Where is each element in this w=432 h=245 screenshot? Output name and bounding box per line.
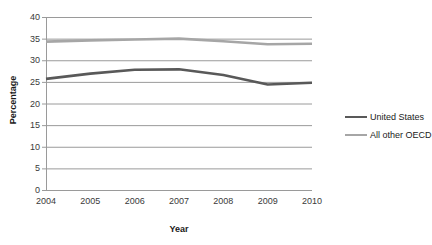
line-swatch-icon [345,134,367,136]
x-axis-tick-labels: 2004200520062007200820092010 [46,196,312,216]
x-axis-title: Year [46,224,312,234]
x-axis-tick-label: 2004 [26,196,66,206]
x-axis-tick-label: 2009 [248,196,288,206]
line-swatch-icon [345,116,367,118]
x-axis-tick-label: 2008 [203,196,243,206]
legend-item[interactable]: United States [345,108,432,126]
x-axis-tick-label: 2005 [70,196,110,206]
legend-item-label: United States [370,112,424,122]
x-axis-tick-label: 2006 [115,196,155,206]
x-axis-tick-label: 2010 [292,196,332,206]
chart-legend: United StatesAll other OECD [345,108,432,144]
x-axis-tick-label: 2007 [159,196,199,206]
y-axis-ticks [42,18,46,191]
legend-item-label: All other OECD [370,130,432,140]
legend-item[interactable]: All other OECD [345,126,432,144]
line-chart: Percentage 0510152025303540 200420052006… [0,0,432,245]
